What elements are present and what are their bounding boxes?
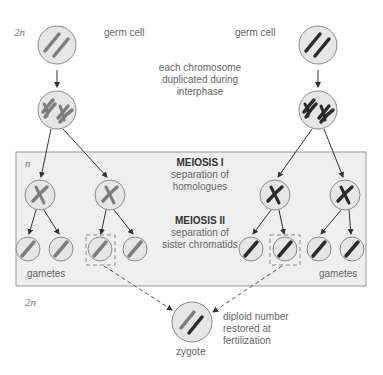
gamete-cell [16, 237, 40, 261]
meiosis1-caption: MEIOSIS I separation of homologues [140, 157, 260, 193]
gametes-label-left: gametes [27, 268, 65, 280]
zygote-cell [172, 302, 212, 342]
left-meiosis1-cell-b [95, 180, 125, 210]
gamete-cell-selected [273, 237, 297, 261]
ploidy-label-top: 2n [14, 26, 25, 38]
left-germ-cell [38, 26, 76, 64]
germ-cell-label-right: germ cell [235, 27, 276, 39]
caption-line: homologues [140, 181, 260, 193]
meiosis-diagram: 2n n 2n germ cell germ cell each chromos… [0, 0, 383, 375]
gamete-cell-selected [88, 237, 112, 261]
caption-line: restored at [223, 323, 289, 335]
left-meiosis1-cell-a [25, 180, 55, 210]
gamete-cell [307, 237, 331, 261]
ploidy-label-bottom: 2n [25, 296, 36, 308]
meiosis2-caption: MEIOSIS II separation of sister chromati… [140, 215, 260, 251]
caption-line: fertilization [223, 335, 289, 347]
germ-cell-label-left: germ cell [104, 27, 145, 39]
ploidy-label-middle: n [25, 157, 31, 169]
caption-line: diploid number [223, 311, 289, 323]
caption-line: separation of [140, 227, 260, 239]
caption-line: each chromosome [140, 62, 260, 74]
caption-line: interphase [140, 86, 260, 98]
right-meiosis1-cell-b [330, 180, 360, 210]
meiosis2-title: MEIOSIS II [140, 215, 260, 227]
zygote-label: zygote [176, 346, 205, 358]
gamete-cell [49, 237, 73, 261]
interphase-caption: each chromosome duplicated during interp… [140, 62, 260, 98]
caption-line: separation of [140, 169, 260, 181]
caption-line: duplicated during [140, 74, 260, 86]
right-duplicated-cell [299, 91, 337, 129]
right-meiosis1-cell-a [260, 180, 290, 210]
left-duplicated-cell [38, 91, 76, 129]
right-germ-cell [299, 26, 337, 64]
gametes-label-right: gametes [319, 268, 357, 280]
meiosis1-title: MEIOSIS I [140, 157, 260, 169]
fertilization-caption: diploid number restored at fertilization [223, 311, 289, 347]
gamete-cell [340, 237, 364, 261]
caption-line: sister chromatids [140, 239, 260, 251]
